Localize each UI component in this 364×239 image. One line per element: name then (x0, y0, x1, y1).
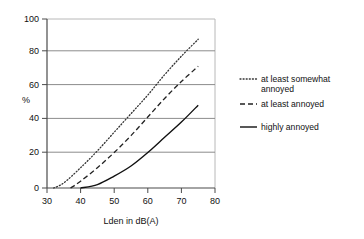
x-tick-label-60: 60 (143, 196, 153, 206)
y-tick-label-0: 0 (34, 183, 39, 193)
y-tick-label-80: 80 (29, 46, 39, 56)
y-tick-label-20: 20 (29, 147, 39, 157)
y-tick-label-100: 100 (24, 14, 39, 24)
x-tick-label-80: 80 (210, 196, 220, 206)
legend-label-at-least-somewhat-annoyed-line2: annoyed (261, 84, 294, 94)
x-tick-label-30: 30 (42, 196, 52, 206)
annoyance-dose-response-chart: 100 80 60 40 20 0 30 40 50 60 70 80 % Ld… (0, 0, 364, 239)
y-axis-title: % (22, 95, 30, 105)
x-axis-title: Lden in dB(A) (103, 216, 158, 226)
y-tick-label-40: 40 (29, 113, 39, 123)
x-tick-label-50: 50 (109, 196, 119, 206)
y-tick-label-60: 60 (29, 80, 39, 90)
legend-label-at-least-somewhat-annoyed-line1: at least somewhat (261, 74, 331, 84)
x-tick-label-40: 40 (76, 196, 86, 206)
legend-label-at-least-annoyed: at least annoyed (261, 99, 324, 109)
legend-label-highly-annoyed: highly annoyed (261, 122, 319, 132)
chart-figure: 100 80 60 40 20 0 30 40 50 60 70 80 % Ld… (0, 0, 364, 239)
x-tick-label-70: 70 (176, 196, 186, 206)
